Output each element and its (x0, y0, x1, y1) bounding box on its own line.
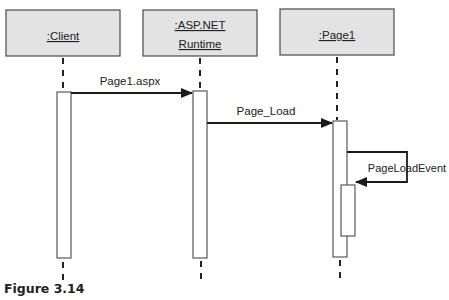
activation-page1-nested (341, 185, 355, 236)
object-label-page1: :Page1 (319, 29, 355, 41)
activation-client (57, 92, 71, 258)
message-label-page-load: Page_Load (237, 105, 296, 117)
figure-caption: Figure 3.14 (4, 281, 85, 296)
object-label-runtime-line1: :ASP.NET (175, 19, 226, 31)
message-label-page1-aspx: Page1.aspx (100, 75, 161, 87)
object-label-runtime-line2: Runtime (179, 38, 222, 50)
object-client: :Client (6, 10, 120, 56)
message-label-page-load-event: PageLoadEvent (368, 162, 446, 174)
object-page1: :Page1 (280, 9, 394, 55)
message-page-load: Page_Load (207, 105, 332, 123)
sequence-diagram: :Client :ASP.NET Runtime :Page1 Page1.as… (0, 0, 449, 300)
message-page1-aspx: Page1.aspx (71, 75, 192, 93)
object-aspnet-runtime: :ASP.NET Runtime (143, 10, 257, 56)
activation-runtime (193, 91, 207, 258)
object-label-client: :Client (47, 30, 80, 42)
message-page-load-event: PageLoadEvent (347, 152, 446, 182)
